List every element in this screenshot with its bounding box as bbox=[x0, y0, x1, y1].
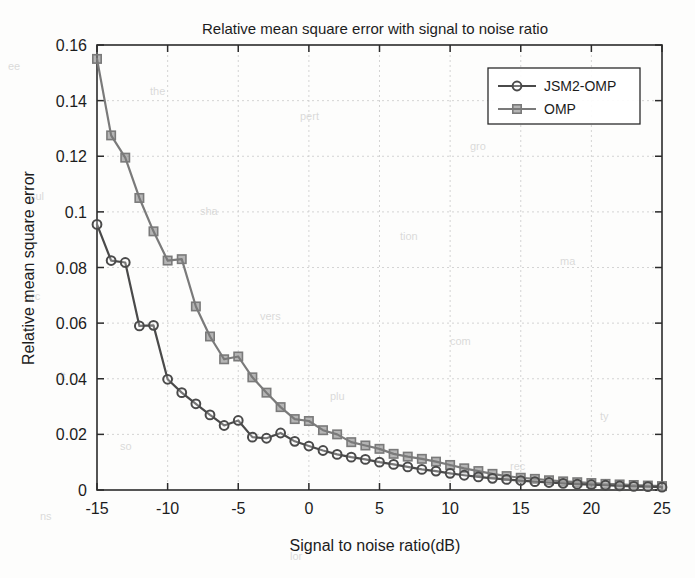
data-point-marker-circle bbox=[516, 476, 525, 485]
y-axis-label: Relative mean square error bbox=[20, 170, 37, 365]
data-point-marker-square bbox=[333, 430, 341, 438]
y-tick-label: 0.1 bbox=[65, 204, 87, 221]
data-point-marker-square bbox=[262, 388, 270, 396]
data-point-marker-circle bbox=[545, 478, 554, 487]
data-point-marker-square bbox=[178, 255, 186, 263]
data-point-marker-square bbox=[248, 373, 256, 381]
data-point-marker-square bbox=[446, 461, 454, 469]
data-point-marker-square bbox=[192, 302, 200, 310]
data-point-marker-circle bbox=[234, 416, 243, 425]
data-point-marker-square bbox=[121, 153, 129, 161]
x-tick-label: 10 bbox=[441, 500, 459, 517]
y-tick-label: 0.04 bbox=[56, 371, 87, 388]
x-tick-label: 15 bbox=[512, 500, 530, 517]
data-point-marker-circle bbox=[149, 321, 158, 330]
x-tick-label: -15 bbox=[85, 500, 108, 517]
data-point-marker-square bbox=[513, 105, 521, 113]
data-point-marker-circle bbox=[93, 220, 102, 229]
data-point-marker-circle bbox=[474, 473, 483, 482]
data-point-marker-circle bbox=[135, 322, 144, 331]
data-point-marker-circle bbox=[513, 82, 522, 91]
y-tick-label: 0.16 bbox=[56, 37, 87, 54]
data-point-marker-square bbox=[389, 450, 397, 458]
data-point-marker-circle bbox=[629, 482, 638, 491]
data-point-marker-circle bbox=[417, 465, 426, 474]
data-point-marker-circle bbox=[262, 434, 271, 443]
data-point-marker-circle bbox=[361, 455, 370, 464]
data-point-marker-square bbox=[291, 415, 299, 423]
data-point-marker-square bbox=[361, 441, 369, 449]
data-point-marker-square bbox=[305, 417, 313, 425]
data-point-marker-circle bbox=[488, 474, 497, 483]
x-tick-label: -10 bbox=[156, 500, 179, 517]
data-point-marker-circle bbox=[220, 421, 229, 430]
legend-label: JSM2-OMP bbox=[544, 78, 616, 94]
data-point-marker-circle bbox=[530, 477, 539, 486]
data-point-marker-circle bbox=[432, 467, 441, 476]
data-point-marker-circle bbox=[389, 460, 398, 469]
x-tick-label: 5 bbox=[375, 500, 384, 517]
data-point-marker-circle bbox=[206, 411, 215, 420]
data-point-marker-circle bbox=[375, 458, 384, 467]
data-point-marker-circle bbox=[643, 482, 652, 491]
data-point-marker-circle bbox=[601, 481, 610, 490]
data-point-marker-circle bbox=[573, 480, 582, 489]
y-tick-label: 0 bbox=[78, 482, 87, 499]
x-tick-label: 20 bbox=[582, 500, 600, 517]
data-point-marker-square bbox=[319, 426, 327, 434]
data-point-marker-circle bbox=[191, 399, 200, 408]
data-point-marker-square bbox=[347, 438, 355, 446]
data-point-marker-circle bbox=[587, 480, 596, 489]
data-point-marker-square bbox=[418, 455, 426, 463]
data-point-marker-circle bbox=[163, 375, 172, 384]
data-point-marker-square bbox=[163, 256, 171, 264]
data-point-marker-circle bbox=[121, 258, 130, 267]
data-point-marker-circle bbox=[502, 475, 511, 484]
y-tick-label: 0.08 bbox=[56, 260, 87, 277]
data-point-marker-circle bbox=[403, 463, 412, 472]
chart-legend[interactable]: JSM2-OMPOMP bbox=[488, 68, 640, 124]
data-point-marker-circle bbox=[347, 453, 356, 462]
data-point-marker-square bbox=[375, 445, 383, 453]
x-tick-label: -5 bbox=[231, 500, 245, 517]
data-point-marker-circle bbox=[658, 483, 667, 492]
data-point-marker-circle bbox=[177, 388, 186, 397]
data-point-marker-circle bbox=[460, 471, 469, 480]
y-tick-label: 0.12 bbox=[56, 148, 87, 165]
y-tick-label: 0.14 bbox=[56, 93, 87, 110]
data-point-marker-square bbox=[107, 131, 115, 139]
data-point-marker-square bbox=[404, 452, 412, 460]
legend-label: OMP bbox=[544, 101, 576, 117]
data-point-marker-circle bbox=[559, 479, 568, 488]
data-point-marker-circle bbox=[290, 437, 299, 446]
data-point-marker-circle bbox=[276, 429, 285, 438]
chart-title: Relative mean square error with signal t… bbox=[202, 20, 548, 37]
data-point-marker-circle bbox=[248, 433, 257, 442]
data-point-marker-square bbox=[432, 457, 440, 465]
data-point-marker-circle bbox=[304, 442, 313, 451]
y-tick-label: 0.06 bbox=[56, 315, 87, 332]
x-axis-label: Signal to noise ratio(dB) bbox=[290, 537, 461, 554]
x-tick-label: 25 bbox=[653, 500, 671, 517]
x-tick-label: 0 bbox=[304, 500, 313, 517]
data-point-marker-square bbox=[220, 355, 228, 363]
figure-container: ee the pert gro sul sha tion ma arc vers… bbox=[0, 0, 695, 578]
data-point-marker-square bbox=[135, 194, 143, 202]
data-point-marker-circle bbox=[615, 481, 624, 490]
chart-canvas: -15-10-5051015202500.020.040.060.080.10.… bbox=[0, 0, 695, 578]
data-point-marker-circle bbox=[107, 256, 116, 265]
data-point-marker-circle bbox=[333, 450, 342, 459]
data-point-marker-circle bbox=[319, 446, 328, 455]
data-point-marker-square bbox=[93, 55, 101, 63]
data-point-marker-square bbox=[149, 227, 157, 235]
data-point-marker-square bbox=[234, 352, 242, 360]
data-point-marker-square bbox=[276, 403, 284, 411]
data-point-marker-square bbox=[206, 332, 214, 340]
data-point-marker-circle bbox=[446, 469, 455, 478]
y-tick-label: 0.02 bbox=[56, 426, 87, 443]
